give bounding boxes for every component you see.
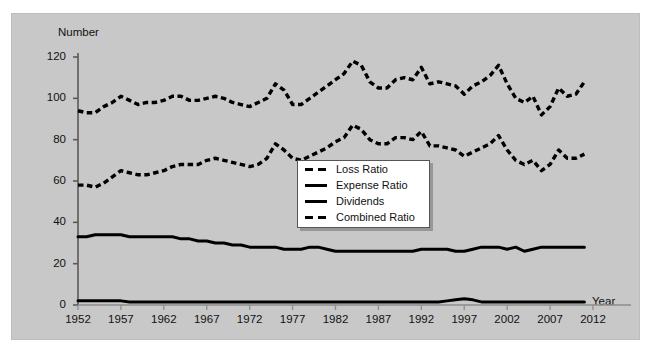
x-tick-label: 1987 [358, 313, 398, 325]
x-tick-label: 1997 [444, 313, 484, 325]
legend-item-dividends: Dividends [298, 193, 429, 209]
series-line [78, 299, 584, 302]
legend-swatch-dashed-icon [304, 209, 330, 225]
legend-swatch-dashed-icon [304, 161, 330, 177]
series-line [78, 61, 584, 115]
legend-label: Expense Ratio [336, 177, 408, 193]
legend-item-expense-ratio: Expense Ratio [298, 177, 429, 193]
x-tick-label: 1972 [230, 313, 270, 325]
y-tick-label: 60 [36, 174, 66, 186]
x-tick-label: 1962 [144, 313, 184, 325]
x-tick-label: 2002 [487, 313, 527, 325]
x-tick-label: 2012 [573, 313, 613, 325]
legend-item-loss-ratio: Loss Ratio [298, 161, 429, 177]
legend-label: Loss Ratio [336, 161, 388, 177]
x-tick-label: 1967 [187, 313, 227, 325]
legend-label: Dividends [336, 193, 384, 209]
x-tick-label: 1982 [316, 313, 356, 325]
legend-swatch-solid-icon [304, 177, 330, 193]
x-tick-label: 1977 [273, 313, 313, 325]
x-tick-label: 1992 [401, 313, 441, 325]
y-tick-label: 80 [36, 133, 66, 145]
x-tick-label: 1952 [58, 313, 98, 325]
legend-item-combined-ratio: Combined Ratio [298, 209, 429, 225]
chart-legend: Loss Ratio Expense Ratio Dividends Combi… [297, 160, 430, 228]
y-tick-label: 0 [36, 298, 66, 310]
y-tick-label: 120 [36, 50, 66, 62]
y-tick-label: 20 [36, 257, 66, 269]
y-tick-label: 40 [36, 215, 66, 227]
y-tick-label: 100 [36, 91, 66, 103]
series-line [78, 235, 584, 252]
x-tick-label: 2007 [530, 313, 570, 325]
legend-swatch-solid-icon [304, 193, 330, 209]
legend-label: Combined Ratio [336, 209, 415, 225]
chart-figure: Number Year Loss Ratio Expense Ratio Div… [0, 0, 651, 353]
x-tick-label: 1957 [101, 313, 141, 325]
